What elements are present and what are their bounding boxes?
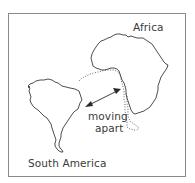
coast-dot	[28, 86, 30, 88]
map-drawing	[0, 0, 195, 183]
label-apart: apart	[95, 123, 123, 134]
south-america-outline	[28, 79, 82, 152]
label-africa: Africa	[133, 22, 164, 33]
africa-outline	[91, 34, 168, 114]
double-headed-arrow	[85, 88, 121, 107]
label-moving: moving	[88, 111, 128, 122]
label-south-america: South America	[28, 158, 106, 169]
